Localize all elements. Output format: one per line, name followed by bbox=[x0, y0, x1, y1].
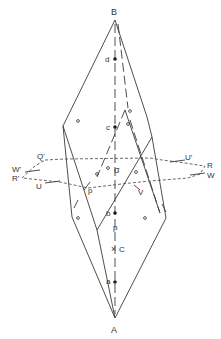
edge-right-vertical bbox=[152, 137, 166, 218]
hidden-edge-left bbox=[97, 110, 125, 177]
axis-point-sigma: σ bbox=[114, 165, 120, 175]
vertex-label-b: B bbox=[111, 7, 117, 17]
axis-label-c: c bbox=[106, 123, 110, 132]
axis-point-C: × C bbox=[111, 244, 125, 254]
dot-marker bbox=[113, 125, 117, 129]
circle-marker bbox=[129, 110, 132, 113]
circle-marker bbox=[107, 167, 110, 170]
circle-marker bbox=[77, 217, 80, 220]
tick-u bbox=[45, 181, 60, 183]
axis-label-p: p bbox=[113, 223, 118, 232]
dot-marker bbox=[113, 57, 117, 61]
axis-label-a: a bbox=[106, 277, 111, 286]
plane-label-v: V bbox=[138, 188, 144, 197]
axis-secondary bbox=[118, 24, 128, 108]
plane-label-r: R bbox=[207, 161, 213, 170]
edge-b-left bbox=[63, 20, 115, 126]
cross-marker-icon: × bbox=[111, 244, 116, 254]
edge-b-right bbox=[115, 20, 147, 117]
plane-label-u: U bbox=[36, 182, 42, 191]
circle-marker bbox=[135, 171, 138, 174]
edge-lower-right bbox=[115, 218, 166, 318]
plane-label-w-prime: W' bbox=[12, 165, 22, 174]
plane-label-w: W bbox=[207, 171, 215, 180]
plane-label-q-prime: Q' bbox=[37, 152, 45, 161]
edge-lower-left bbox=[72, 217, 115, 318]
dot-marker bbox=[113, 211, 117, 215]
plane-label-r-prime: R' bbox=[12, 174, 20, 183]
tick-w-prime bbox=[25, 170, 40, 172]
axis-label-C: C bbox=[119, 245, 125, 254]
edge-tick bbox=[74, 200, 78, 208]
plane-label-p: p bbox=[88, 186, 93, 195]
circle-marker bbox=[127, 123, 130, 126]
circle-marker bbox=[77, 120, 80, 123]
axis-label-d: d bbox=[105, 55, 109, 64]
vertex-label-a: A bbox=[111, 325, 117, 335]
edge-right-upper bbox=[147, 117, 152, 137]
plane-label-u-prime: U' bbox=[185, 153, 193, 162]
circle-marker bbox=[144, 217, 147, 220]
axis-point-p: p bbox=[113, 223, 118, 232]
crystal-diagram: B A d c σ b p × C a Q' W' bbox=[0, 0, 221, 339]
axis-label-b: b bbox=[106, 209, 111, 218]
dot-marker bbox=[113, 280, 117, 284]
axis-label-sigma: σ bbox=[114, 165, 120, 175]
